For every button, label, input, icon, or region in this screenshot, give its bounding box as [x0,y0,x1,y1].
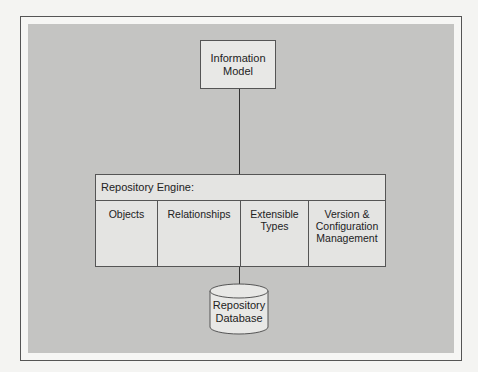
repository-engine-title: Repository Engine: [96,175,385,201]
repository-database-label: Repository Database [209,299,269,325]
information-model-node: Information Model [200,40,276,89]
component-relationships: Relationships [158,201,241,267]
repository-engine-components: Objects Relationships Extensible Types V… [96,201,385,267]
connector-model-to-engine [239,89,240,174]
component-extensible-types: Extensible Types [241,201,309,267]
component-objects: Objects [96,201,158,267]
repository-database-node: Repository Database [209,283,269,335]
component-version-config-management: Version & Configuration Management [309,201,385,267]
information-model-label: Information Model [210,52,265,78]
repository-engine-node: Repository Engine: Objects Relationships… [95,174,386,267]
